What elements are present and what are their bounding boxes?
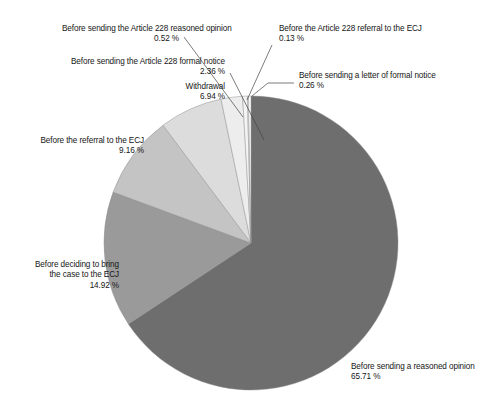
label-letter-formal-notice: Before sending a letter of formal notice… bbox=[299, 71, 485, 92]
label-a228-formal-notice-value: 2.36 % bbox=[36, 67, 225, 77]
label-referral-ecj-text: Before the referral to the ECJ bbox=[18, 136, 144, 146]
label-a228-referral-ecj-value: 0.13 % bbox=[279, 34, 479, 44]
label-withdrawal: Withdrawal 6.94 % bbox=[106, 82, 225, 103]
label-a228-reasoned-opinion: Before sending the Article 228 reasoned … bbox=[62, 24, 179, 45]
label-reasoned-opinion-value: 65.71 % bbox=[351, 372, 486, 382]
pie-slices: Before sending a reasoned opinion 65.71 … bbox=[104, 96, 398, 390]
leader-line-a228-referral-ecj bbox=[247, 45, 272, 100]
leader-line-letter-formal-notice bbox=[252, 83, 294, 96]
label-letter-formal-notice-value: 0.26 % bbox=[299, 81, 485, 91]
label-a228-referral-ecj-text: Before the Article 228 referral to the E… bbox=[279, 24, 479, 34]
label-letter-formal-notice-text: Before sending a letter of formal notice bbox=[299, 71, 485, 81]
label-reasoned-opinion: Before sending a reasoned opinion 65.71 … bbox=[351, 362, 486, 383]
label-bring-case-ecj-text-line2: the case to the ECJ bbox=[12, 270, 119, 280]
label-a228-formal-notice: Before sending the Article 228 formal no… bbox=[36, 57, 225, 78]
label-bring-case-ecj-text-line1: Before deciding to bring bbox=[12, 260, 119, 270]
label-referral-ecj: Before the referral to the ECJ 9.16 % bbox=[18, 136, 144, 157]
label-bring-case-ecj-value: 14.92 % bbox=[12, 281, 119, 291]
label-withdrawal-value: 6.94 % bbox=[106, 92, 225, 102]
label-bring-case-ecj: Before deciding to bring the case to the… bbox=[12, 260, 119, 291]
label-a228-referral-ecj: Before the Article 228 referral to the E… bbox=[279, 24, 479, 45]
pie-chart-page: Before sending a reasoned opinion 65.71 … bbox=[0, 0, 486, 411]
label-withdrawal-text: Withdrawal bbox=[106, 82, 225, 92]
label-a228-formal-notice-text: Before sending the Article 228 formal no… bbox=[36, 57, 225, 67]
label-reasoned-opinion-text: Before sending a reasoned opinion bbox=[351, 362, 486, 372]
label-a228-reasoned-opinion-text: Before sending the Article 228 reasoned … bbox=[62, 24, 179, 34]
label-referral-ecj-value: 9.16 % bbox=[18, 146, 144, 156]
label-a228-reasoned-opinion-value: 0.52 % bbox=[62, 34, 179, 44]
